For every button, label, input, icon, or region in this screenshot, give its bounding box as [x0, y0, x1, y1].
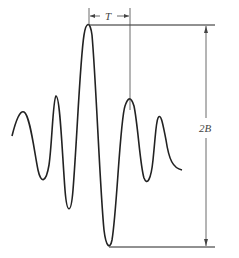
waveform-curve — [12, 24, 182, 245]
amplitude-label: 2B — [199, 122, 212, 134]
arrowhead-right-icon — [124, 14, 129, 18]
arrowhead-left-icon — [90, 14, 95, 18]
arrowhead-down-icon — [204, 239, 208, 246]
period-label: T — [105, 10, 112, 22]
arrowhead-up-icon — [204, 26, 208, 33]
waveform-diagram: T 2B — [0, 0, 239, 258]
